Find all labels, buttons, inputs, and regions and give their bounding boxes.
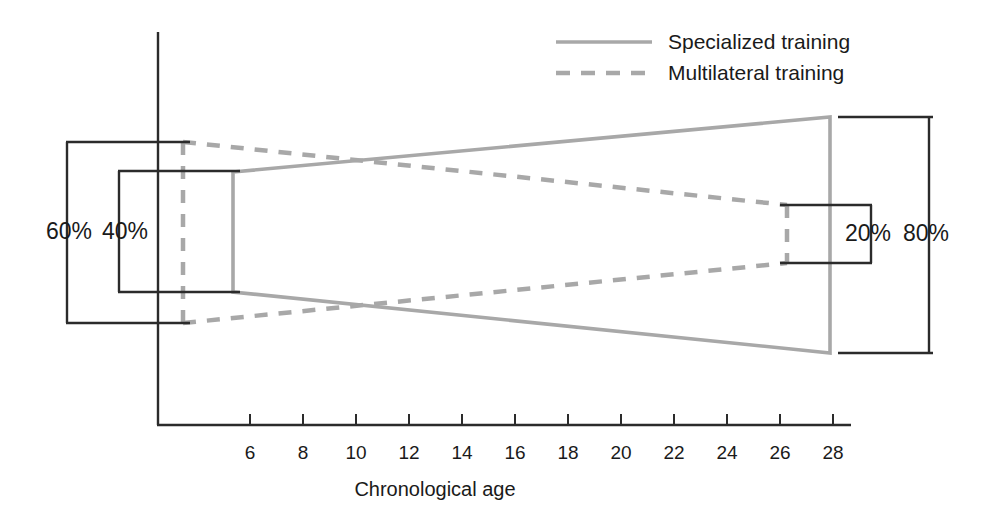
legend-label-specialized: Specialized training <box>668 31 850 52</box>
x-tick-label-10: 10 <box>345 443 366 462</box>
series-specialized-training <box>233 117 830 353</box>
left-brackets-group <box>66 142 240 323</box>
x-tick-label-18: 18 <box>557 443 578 462</box>
multilateral-lower-bound <box>183 263 787 323</box>
specialized-band-path <box>233 117 830 353</box>
bracket-label-40-percent: 40% <box>102 220 148 243</box>
x-tick-label-24: 24 <box>716 443 737 462</box>
bracket-label-60-percent: 60% <box>46 220 92 243</box>
x-tick-label-16: 16 <box>504 443 525 462</box>
x-tick-label-14: 14 <box>451 443 472 462</box>
x-tick-label-22: 22 <box>663 443 684 462</box>
chart-container: 6 8 10 12 14 16 18 20 22 24 26 28 Chrono… <box>0 0 985 510</box>
x-tick-label-20: 20 <box>610 443 631 462</box>
bracket-label-20-percent: 20% <box>845 222 891 245</box>
legend-label-multilateral: Multilateral training <box>668 62 844 83</box>
x-tick-label-12: 12 <box>398 443 419 462</box>
x-tick-label-28: 28 <box>822 443 843 462</box>
x-tick-label-6: 6 <box>245 443 256 462</box>
x-axis-ticks <box>250 414 833 425</box>
axes-group <box>157 32 851 425</box>
x-tick-label-26: 26 <box>769 443 790 462</box>
x-axis-title: Chronological age <box>354 479 515 499</box>
legend-swatches <box>556 42 652 73</box>
multilateral-upper-bound <box>183 142 787 205</box>
bracket-label-80-percent: 80% <box>903 222 949 245</box>
x-tick-label-8: 8 <box>298 443 309 462</box>
